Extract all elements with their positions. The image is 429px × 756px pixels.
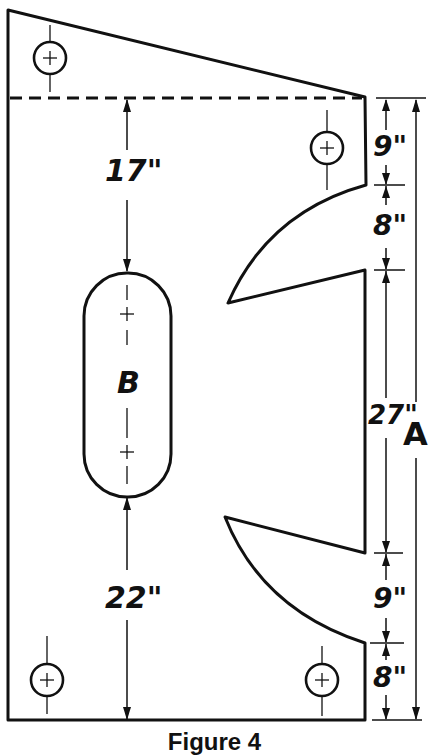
overall-label-a: A (403, 418, 428, 450)
hole-bottom-left (31, 636, 63, 714)
hole-bottom-right (306, 646, 338, 716)
dimension-label-upper-notch: 8" (373, 212, 407, 240)
dimension-label-bottom-segment: 8" (373, 664, 407, 692)
dimension-label-lower-notch: 9" (373, 585, 407, 613)
hole-top-right (311, 110, 343, 190)
dimension-label-22: 22" (105, 583, 162, 613)
dimension-label-top-segment: 9" (373, 133, 407, 161)
hole-top-left (34, 25, 66, 92)
part-outline (8, 10, 366, 720)
dimension-label-17: 17" (105, 156, 162, 186)
figure-caption: Figure 4 (0, 728, 429, 756)
slot-label-b: B (117, 368, 140, 398)
